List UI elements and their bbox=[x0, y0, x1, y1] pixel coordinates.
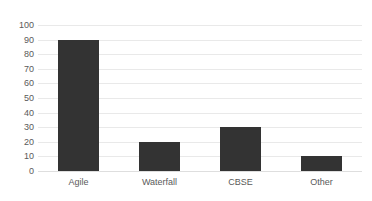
y-axis-tick-label: 70 bbox=[2, 64, 34, 73]
plot-area bbox=[38, 25, 362, 171]
y-axis-tick-label: 50 bbox=[2, 94, 34, 103]
y-axis-tick-label: 40 bbox=[2, 108, 34, 117]
y-axis-tick-label: 80 bbox=[2, 50, 34, 59]
y-axis-tick-label: 0 bbox=[2, 167, 34, 176]
y-axis-tick-label: 10 bbox=[2, 152, 34, 161]
bar-agile bbox=[58, 40, 99, 171]
y-axis-tick-label: 20 bbox=[2, 137, 34, 146]
y-axis-tick-label: 30 bbox=[2, 123, 34, 132]
x-axis-tick-label: Other bbox=[272, 178, 372, 187]
bar-cbse bbox=[220, 127, 261, 171]
bar-waterfall bbox=[139, 142, 180, 171]
y-axis-tick-label: 100 bbox=[2, 21, 34, 30]
bar-other bbox=[301, 156, 342, 171]
y-axis-tick-label: 60 bbox=[2, 79, 34, 88]
gridline bbox=[38, 171, 362, 172]
y-axis-tick-label: 90 bbox=[2, 35, 34, 44]
bar-chart: 0102030405060708090100 AgileWaterfallCBS… bbox=[0, 0, 372, 201]
